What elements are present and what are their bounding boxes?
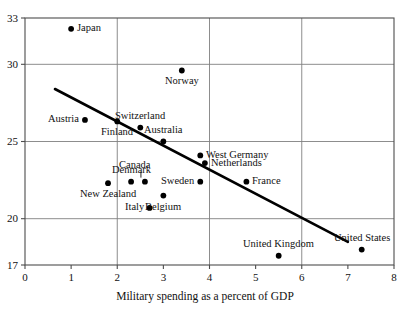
x-axis-title: Military spending as a percent of GDP — [0, 291, 410, 303]
y-tick-label-17: 17 — [0, 260, 18, 271]
y-tick-label-33: 33 — [0, 13, 18, 24]
point-label-netherlands: Netherlands — [211, 158, 262, 169]
point-label-sweden: Sweden — [161, 176, 194, 187]
point-label-united-kingdom: United Kingdom — [243, 239, 314, 250]
point-label-japan: Japan — [77, 23, 101, 34]
point-label-austria: Austria — [48, 114, 79, 125]
data-point-markers — [68, 26, 364, 259]
x-tick-label-1: 1 — [59, 272, 83, 283]
point-label-switzerland: Switzerland — [115, 111, 165, 122]
x-tick-label-7: 7 — [336, 272, 360, 283]
point-label-australia: Australia — [144, 125, 183, 136]
point-label-france: France — [252, 176, 281, 187]
x-tick-label-2: 2 — [105, 272, 129, 283]
plot-canvas — [0, 0, 410, 314]
point-label-united-states: United States — [334, 233, 390, 244]
point-label-finland: Finland — [101, 127, 133, 138]
point-label-norway: Norway — [165, 76, 199, 87]
point-label-new-zealand: New Zealand — [80, 189, 136, 200]
x-tick-label-3: 3 — [151, 272, 175, 283]
x-tick-label-6: 6 — [290, 272, 314, 283]
scatter-plot-figure: 1720253033 012345678 JapanNorwayAustriaS… — [0, 0, 410, 314]
point-label-belgium: Belgium — [145, 202, 181, 213]
x-tick-label-8: 8 — [382, 272, 406, 283]
y-tick-label-20: 20 — [0, 213, 18, 224]
point-label-italy: Italy — [125, 202, 144, 213]
x-tick-label-0: 0 — [13, 272, 37, 283]
x-tick-label-4: 4 — [198, 272, 222, 283]
gridlines — [25, 18, 394, 265]
point-label-denmark: Denmark — [112, 165, 151, 176]
x-tick-label-5: 5 — [244, 272, 268, 283]
y-tick-label-25: 25 — [0, 136, 18, 147]
y-tick-label-30: 30 — [0, 59, 18, 70]
